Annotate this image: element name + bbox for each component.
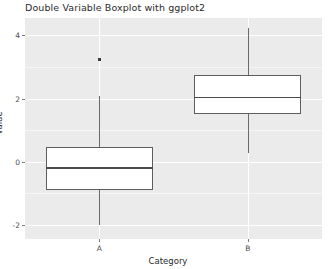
y-axis-title: Value <box>0 111 4 134</box>
y-tick-label: 2 <box>15 95 20 104</box>
boxplot-figure: Double Variable Boxplot with ggplot2 -20… <box>0 0 336 269</box>
gridline-minor <box>25 130 322 131</box>
plot-panel <box>25 18 322 239</box>
x-tick-mark <box>99 239 100 242</box>
y-tick-mark <box>22 225 25 226</box>
outlier-point <box>98 58 101 61</box>
chart-title: Double Variable Boxplot with ggplot2 <box>25 2 205 13</box>
median-line <box>46 167 153 169</box>
x-tick-label: B <box>245 244 250 253</box>
whisker-upper <box>248 28 249 76</box>
y-tick-mark <box>22 99 25 100</box>
y-tick-label: 4 <box>15 31 20 40</box>
gridline-minor <box>25 193 322 194</box>
gridline-major <box>25 35 322 36</box>
gridline-minor <box>25 67 322 68</box>
gridline-major <box>25 225 322 226</box>
y-tick-label: 0 <box>15 158 20 167</box>
box-b <box>194 75 301 114</box>
whisker-upper <box>99 96 100 148</box>
whisker-lower <box>99 190 100 225</box>
x-axis-title: Category <box>0 256 336 266</box>
y-tick-mark <box>22 162 25 163</box>
whisker-lower <box>248 114 249 153</box>
y-tick-label: -2 <box>13 221 20 230</box>
y-tick-mark <box>22 35 25 36</box>
x-tick-label: A <box>97 244 102 253</box>
median-line <box>194 97 301 99</box>
x-tick-mark <box>248 239 249 242</box>
